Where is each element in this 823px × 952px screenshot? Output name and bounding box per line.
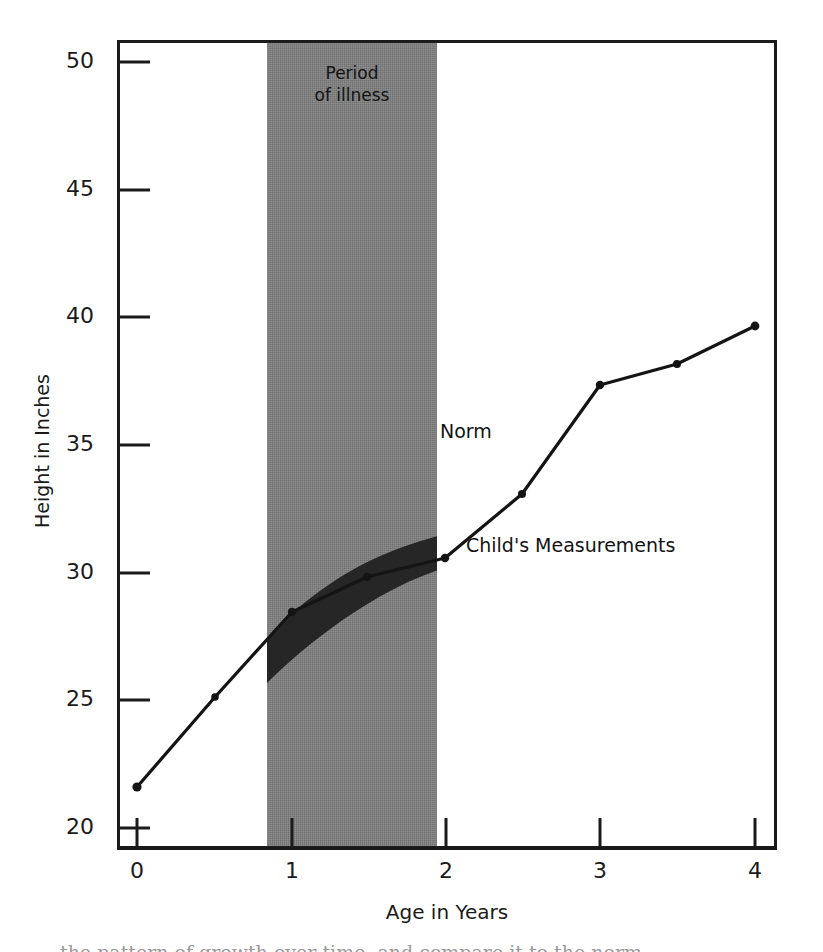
child-measurements-points — [132, 322, 759, 792]
x-tick-label-3: 3 — [580, 858, 620, 883]
y-tick-label-20: 20 — [48, 814, 94, 839]
child-measurements-series — [132, 322, 759, 792]
y-tick-label-40: 40 — [48, 303, 94, 328]
child-series-label: Child's Measurements — [466, 534, 675, 556]
chart-plot-area — [0, 0, 823, 952]
x-tick-label-1: 1 — [272, 858, 312, 883]
y-tick-label-50: 50 — [48, 48, 94, 73]
y-tick-label-25: 25 — [48, 686, 94, 711]
page-caption-sliver: the pattern of growth over time, and com… — [60, 941, 760, 952]
x-axis-title: Age in Years — [347, 900, 547, 924]
chart-figure: Period of illness — [0, 0, 823, 952]
x-tick-label-0: 0 — [117, 858, 157, 883]
norm-series-label: Norm — [440, 420, 492, 442]
y-axis-ticks — [118, 62, 150, 828]
x-tick-label-4: 4 — [735, 858, 775, 883]
y-axis-title: Height in Inches — [31, 351, 53, 551]
y-tick-label-45: 45 — [48, 176, 94, 201]
y-tick-label-30: 30 — [48, 559, 94, 584]
y-tick-label-35: 35 — [48, 431, 94, 456]
x-axis-ticks — [137, 818, 755, 846]
x-tick-label-2: 2 — [426, 858, 466, 883]
